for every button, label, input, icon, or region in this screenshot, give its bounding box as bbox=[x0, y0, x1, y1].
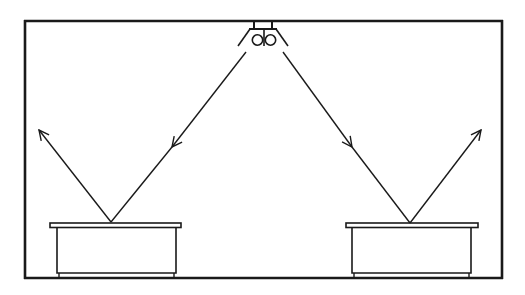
left-box-body bbox=[57, 228, 176, 274]
right-box-body bbox=[352, 228, 471, 274]
diagram-svg bbox=[0, 0, 525, 295]
lamp-bulb-right bbox=[265, 35, 275, 45]
room-frame bbox=[24, 20, 503, 279]
reflection-diagram bbox=[0, 0, 525, 295]
incident-ray-left bbox=[172, 52, 246, 147]
right-box-lid bbox=[346, 223, 478, 228]
light-rays bbox=[39, 52, 481, 223]
ceiling-lamp-icon bbox=[238, 21, 288, 46]
incident-ray-right bbox=[283, 52, 352, 147]
left-box bbox=[50, 223, 181, 278]
reflected-ray-left bbox=[39, 130, 111, 222]
left-box-lid bbox=[50, 223, 181, 228]
lamp-bulb-left bbox=[252, 35, 262, 45]
reflected-ray-right bbox=[410, 130, 481, 223]
right-box bbox=[346, 223, 478, 278]
